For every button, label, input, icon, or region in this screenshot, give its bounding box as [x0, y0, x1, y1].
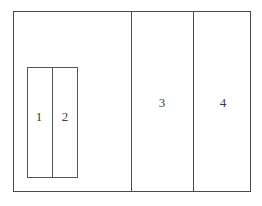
region-label-3: 3: [152, 96, 172, 109]
partition-line-1: [131, 11, 132, 192]
partition-line-2: [193, 11, 194, 192]
nested-divider-line: [52, 67, 53, 178]
diagram-canvas: 1 2 3 4: [0, 0, 262, 206]
region-label-2: 2: [55, 110, 75, 123]
region-label-4: 4: [213, 96, 233, 109]
region-label-1: 1: [29, 110, 49, 123]
